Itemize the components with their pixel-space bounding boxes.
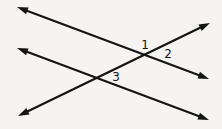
- geometry-diagram: 1 2 3: [0, 0, 222, 129]
- angle-label-3: 3: [112, 70, 120, 84]
- angle-label-2: 2: [164, 47, 172, 61]
- diagram-canvas: 1 2 3: [0, 0, 222, 129]
- angle-label-1: 1: [141, 38, 149, 52]
